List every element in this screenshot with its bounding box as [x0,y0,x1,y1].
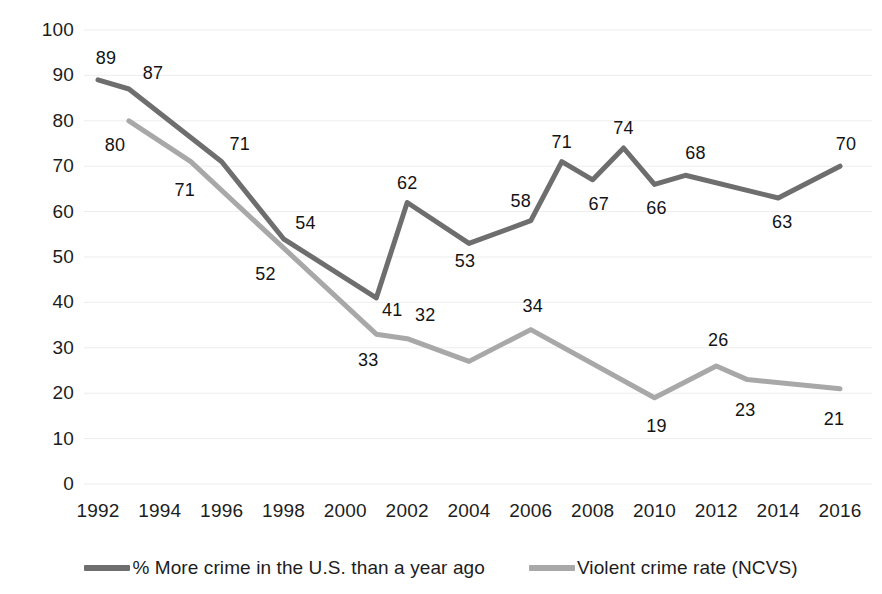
data-label: 71 [552,131,572,152]
legend-swatch-more-crime [84,565,130,571]
y-tick-label: 30 [0,337,74,359]
x-tick-label: 2016 [818,500,861,522]
data-label: 66 [646,198,666,219]
data-label: 33 [358,350,378,371]
data-label: 54 [295,212,315,233]
y-tick-label: 70 [0,155,74,177]
x-tick-label: 2014 [757,500,800,522]
data-label: 63 [772,211,792,232]
data-label: 32 [415,304,435,325]
data-label: 34 [523,295,543,316]
chart-legend: % More crime in the U.S. than a year ago… [0,548,882,588]
data-label: 52 [255,263,275,284]
series-line-1 [129,121,840,398]
data-label: 74 [613,118,633,139]
data-label: 67 [588,193,608,214]
x-tick-label: 1996 [200,500,243,522]
line-chart: 1009080706050403020100 19921994199619982… [0,0,882,594]
x-tick-label: 2002 [386,500,429,522]
y-tick-label: 20 [0,382,74,404]
data-label: 26 [708,329,728,350]
data-label: 70 [836,134,856,155]
data-label: 41 [382,299,402,320]
x-tick-label: 1998 [262,500,305,522]
chart-plot-area [0,0,882,594]
x-tick-label: 2008 [571,500,614,522]
y-tick-label: 40 [0,291,74,313]
legend-label-more-crime: % More crime in the U.S. than a year ago [132,557,485,579]
y-tick-label: 60 [0,201,74,223]
data-label: 21 [824,408,844,429]
data-label: 80 [105,134,125,155]
data-label: 62 [397,172,417,193]
x-tick-label: 2006 [509,500,552,522]
y-tick-label: 10 [0,428,74,450]
y-tick-label: 50 [0,246,74,268]
data-label: 23 [735,399,755,420]
x-tick-label: 2000 [324,500,367,522]
legend-item-violent-crime-rate[interactable]: Violent crime rate (NCVS) [529,557,798,579]
legend-item-more-crime[interactable]: % More crime in the U.S. than a year ago [84,557,485,579]
data-label: 71 [229,133,249,154]
data-label: 68 [685,143,705,164]
data-label: 71 [175,179,195,200]
y-tick-label: 0 [0,473,74,495]
data-label: 87 [143,63,163,84]
data-label: 19 [646,415,666,436]
legend-label-violent-crime-rate: Violent crime rate (NCVS) [577,557,798,579]
series-lines [98,80,840,398]
data-label: 53 [455,251,475,272]
data-label: 58 [511,190,531,211]
data-label: 89 [96,47,116,68]
x-tick-label: 1992 [76,500,119,522]
x-tick-label: 2012 [695,500,738,522]
x-tick-label: 1994 [138,500,181,522]
x-tick-label: 2010 [633,500,676,522]
y-tick-label: 100 [0,19,74,41]
y-tick-label: 80 [0,110,74,132]
y-tick-label: 90 [0,64,74,86]
legend-swatch-violent-crime-rate [529,565,575,571]
x-tick-label: 2004 [447,500,490,522]
